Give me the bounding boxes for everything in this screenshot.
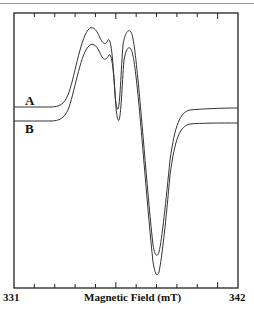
- x-tick-max: 342: [229, 291, 246, 303]
- plot-frame: [14, 13, 238, 288]
- axis-ticks: [34, 13, 217, 288]
- x-tick-min: 331: [3, 291, 20, 303]
- series-b-line: [14, 44, 238, 274]
- series-a-label: A: [25, 93, 34, 109]
- series-b-label: B: [25, 121, 34, 137]
- series-a-line: [14, 28, 238, 256]
- epr-spectrum-plot: [0, 0, 254, 309]
- x-axis-label: Magnetic Field (mT): [84, 291, 181, 303]
